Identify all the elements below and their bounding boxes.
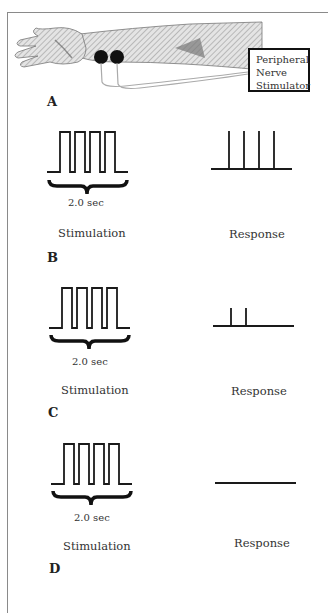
peripheral-nerve-stimulator-box: Peripheral Nerve Stimulator [248, 48, 310, 92]
stimulation-label-d: Stimulation [63, 539, 131, 553]
panel-letter-b: B [47, 250, 58, 265]
panel-letter-c: C [48, 405, 58, 420]
device-label-line: Nerve [256, 66, 308, 79]
response-label-b: Response [229, 227, 285, 241]
panel-letter-d: D [49, 561, 60, 576]
duration-label-c: 2.0 sec [72, 356, 108, 367]
duration-label-b: 2.0 sec [68, 197, 104, 208]
response-label-d: Response [234, 536, 290, 550]
response-label-c: Response [231, 384, 287, 398]
device-label-line: Stimulator [256, 79, 308, 92]
stimulation-waveform-b [45, 128, 135, 198]
duration-label-d: 2.0 sec [74, 512, 110, 523]
response-waveform-b [208, 128, 298, 178]
response-waveform-c [210, 300, 300, 340]
stimulation-label-c: Stimulation [61, 383, 129, 397]
stimulation-label-b: Stimulation [58, 226, 126, 240]
stimulation-waveform-d [49, 440, 139, 510]
electrode-icon [94, 50, 108, 64]
device-label-line: Peripheral [256, 53, 308, 66]
stimulation-waveform-c [47, 285, 137, 355]
response-waveform-d [212, 478, 302, 488]
electrode-icon [110, 50, 124, 64]
panel-letter-a: A [47, 94, 57, 109]
